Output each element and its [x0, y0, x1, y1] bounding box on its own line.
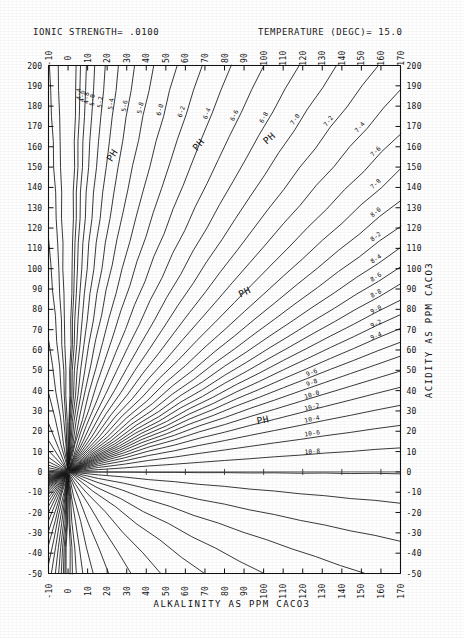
y-tick-label-left--20: -20	[27, 508, 42, 517]
ph-value-label-9-6: 9-6	[305, 367, 319, 378]
y-tick-label-right-0: 0	[407, 467, 412, 476]
y-tick-label-right-110: 110	[407, 244, 422, 253]
ph-caption-0: PH	[104, 147, 120, 163]
y-tick-label-right-70: 70	[407, 325, 417, 334]
ph-line-7-8	[49, 169, 401, 489]
y-tick-label-left-200: 200	[27, 61, 42, 70]
ph-line-6-6	[49, 65, 265, 512]
ph-line-7-6	[49, 134, 401, 492]
y-tick-label-right-130: 130	[407, 203, 422, 212]
x-tick-label-bottom-90: 90	[240, 585, 249, 595]
chart-plot-area: 4-44-64-85-05-25-45-65-86-06-26-46-66-87…	[0, 0, 464, 638]
ph-caption-4: PH	[256, 413, 270, 426]
y-tick-label-left-110: 110	[27, 244, 42, 253]
y-tick-label-left--30: -30	[27, 528, 42, 537]
ph-value-label-8-4: 8-4	[369, 252, 383, 264]
y-tick-label-right--50: -50	[407, 569, 422, 578]
y-tick-label-left-130: 130	[27, 203, 42, 212]
x-tick-label-bottom-120: 120	[298, 583, 307, 598]
y-tick-label-left-0: 0	[37, 467, 42, 476]
x-tick-label-bottom-160: 160	[376, 583, 385, 598]
y-tick-label-right-50: 50	[407, 366, 417, 375]
ph-line-group	[49, 65, 401, 574]
x-tick-label-bottom-150: 150	[357, 583, 366, 598]
ph-line-11-6	[49, 465, 365, 573]
y-tick-label-left-20: 20	[32, 427, 42, 436]
y-tick-label-left-140: 140	[27, 183, 42, 192]
x-tick-label-bottom-140: 140	[337, 583, 346, 598]
y-tick-label-right-30: 30	[407, 406, 417, 415]
x-tick-label-top-70: 70	[200, 52, 209, 62]
y-tick-label-left--50: -50	[27, 569, 42, 578]
x-tick-label-top--10: -10	[44, 50, 53, 65]
x-tick-label-bottom-130: 130	[318, 583, 327, 598]
y-tick-label-right--10: -10	[407, 488, 422, 497]
x-tick-label-bottom-20: 20	[103, 585, 112, 595]
y-tick-label-left-180: 180	[27, 102, 42, 111]
x-tick-label-top-140: 140	[337, 50, 346, 65]
y-tick-label-left-100: 100	[27, 264, 42, 273]
y-tick-label-left-30: 30	[32, 406, 42, 415]
ph-value-label-9-2: 9-2	[369, 318, 383, 329]
ph-value-label-7-0: 7-0	[289, 112, 301, 126]
ph-value-label-6-2: 6-2	[176, 105, 186, 118]
ph-value-label-8-6: 8-6	[369, 271, 383, 283]
x-tick-label-top-60: 60	[181, 52, 190, 62]
ph-line-5-2	[59, 66, 106, 574]
ph-value-label-5-8: 5-8	[135, 101, 144, 114]
x-tick-label-top-110: 110	[279, 50, 288, 65]
x-tick-label-bottom-100: 100	[259, 583, 268, 598]
x-tick-label-bottom-70: 70	[200, 585, 209, 595]
x-axis-title: ALKALINITY AS PPM CACO3	[154, 599, 311, 609]
ph-value-label-6-0: 6-0	[155, 103, 165, 116]
x-tick-label-top-170: 170	[396, 50, 405, 65]
x-tick-label-bottom-0: 0	[64, 588, 73, 593]
x-tick-label-top-50: 50	[161, 52, 170, 62]
y-tick-label-left-80: 80	[32, 305, 42, 314]
deffeyes-diagram-page: IONIC STRENGTH= .0100 TEMPERATURE (DEGC)…	[0, 0, 464, 638]
ph-line-labels: 4-44-64-85-05-25-45-65-86-06-26-46-66-87…	[75, 88, 383, 455]
x-tick-label-top-160: 160	[376, 50, 385, 65]
x-tick-label-top-120: 120	[298, 50, 307, 65]
y-tick-label-right-160: 160	[407, 142, 422, 151]
x-tick-label-bottom--10: -10	[44, 583, 53, 598]
x-tick-label-bottom-170: 170	[396, 583, 405, 598]
ph-line-8-0	[49, 200, 401, 487]
ph-line-7-4	[49, 90, 401, 495]
ph-line-5-6	[51, 66, 134, 574]
x-tick-label-bottom-80: 80	[220, 585, 229, 595]
y-tick-label-right-20: 20	[407, 427, 417, 436]
y-tick-label-right--40: -40	[407, 549, 422, 558]
ph-line-11-4	[49, 468, 401, 542]
y-tick-label-left-120: 120	[27, 224, 42, 233]
y-tick-label-left-190: 190	[27, 81, 42, 90]
ph-line-9-2	[49, 315, 401, 482]
y-tick-label-left-60: 60	[32, 345, 42, 354]
y-tick-label-right-140: 140	[407, 183, 422, 192]
x-tick-label-top-0: 0	[64, 55, 73, 60]
ph-value-label-7-6: 7-6	[369, 144, 382, 157]
y-tick-label-right-40: 40	[407, 386, 417, 395]
ph-caption-1: PH	[190, 136, 206, 153]
ph-caption-2: PH	[261, 130, 278, 147]
x-tick-label-bottom-10: 10	[83, 585, 92, 595]
ph-line-4-8	[63, 66, 86, 574]
y-tick-label-right--20: -20	[407, 508, 422, 517]
ph-value-label-8-8: 8-8	[369, 287, 383, 299]
y-tick-label-left-150: 150	[27, 163, 42, 172]
x-tick-label-top-40: 40	[142, 52, 151, 62]
ph-line-10-6	[49, 425, 401, 474]
y-tick-label-left-40: 40	[32, 386, 42, 395]
x-tick-label-bottom-60: 60	[181, 585, 190, 595]
y-tick-label-left-170: 170	[27, 122, 42, 131]
x-tick-label-top-90: 90	[240, 52, 249, 62]
y-tick-label-right-100: 100	[407, 264, 422, 273]
ph-line-10-4	[49, 405, 401, 476]
x-tick-label-bottom-50: 50	[161, 585, 170, 595]
ph-value-label-6-8: 6-8	[257, 110, 269, 124]
x-tick-label-top-20: 20	[103, 52, 112, 62]
y-tick-label-left--10: -10	[27, 488, 42, 497]
ph-value-label-5-2: 5-2	[96, 96, 104, 108]
ph-line-9-6	[49, 342, 401, 479]
ph-line-11-2	[49, 470, 401, 503]
